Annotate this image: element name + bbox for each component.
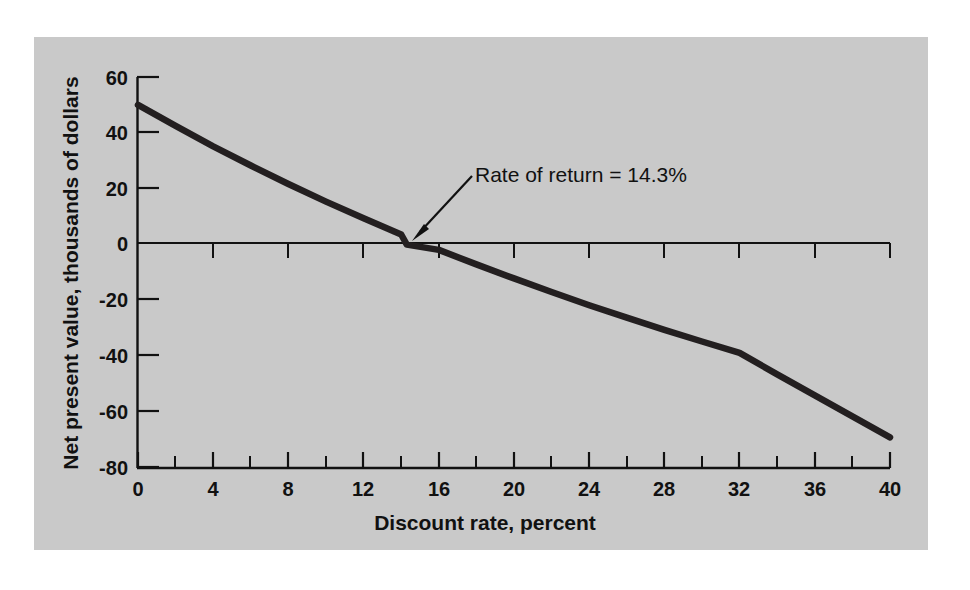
x-axis-tick-labels: 0 4 8 12 16 20 24 28 32 36 40 xyxy=(132,478,901,500)
rate-of-return-annotation-label: Rate of return = 14.3% xyxy=(475,163,687,186)
x-axis-title: Discount rate, percent xyxy=(374,511,596,534)
y-tick-label: -60 xyxy=(99,401,128,423)
x-tick-label: 16 xyxy=(428,478,450,500)
x-tick-label: 28 xyxy=(653,478,675,500)
x-tick-label: 4 xyxy=(207,478,219,500)
x-tick-label: 12 xyxy=(352,478,374,500)
y-tick-label: 0 xyxy=(117,233,128,255)
chart-figure: 60 40 20 0 -20 -40 -60 -80 xyxy=(0,0,970,590)
y-axis-ticks xyxy=(137,77,159,467)
x-tick-label: 8 xyxy=(282,478,293,500)
y-tick-label: -80 xyxy=(99,457,128,479)
x-tick-label: 32 xyxy=(728,478,750,500)
y-axis-tick-labels: 60 40 20 0 -20 -40 -60 -80 xyxy=(99,67,128,479)
y-axis-title: Net present value, thousands of dollars xyxy=(59,76,82,469)
y-tick-label: 20 xyxy=(106,178,128,200)
npv-profile-curve xyxy=(138,105,890,437)
zero-line-ticks xyxy=(213,243,890,258)
x-tick-label: 36 xyxy=(804,478,826,500)
x-tick-label: 0 xyxy=(132,478,143,500)
y-tick-label: 60 xyxy=(106,67,128,89)
y-tick-label: -40 xyxy=(99,345,128,367)
npv-profile-chart: 60 40 20 0 -20 -40 -60 -80 xyxy=(0,0,970,590)
y-tick-label: 40 xyxy=(106,122,128,144)
x-tick-label: 20 xyxy=(503,478,525,500)
x-tick-label: 40 xyxy=(879,478,901,500)
x-tick-label: 24 xyxy=(578,478,601,500)
rate-of-return-arrow xyxy=(412,176,472,241)
y-tick-label: -20 xyxy=(99,289,128,311)
